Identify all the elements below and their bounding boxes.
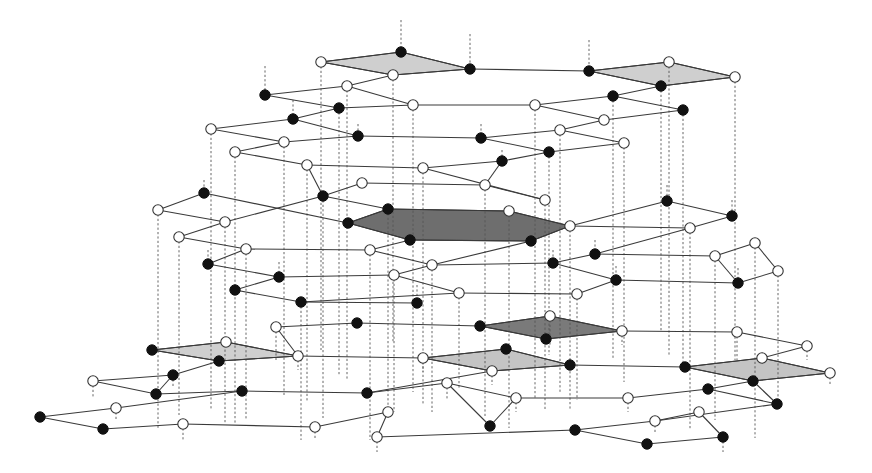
white-atom-icon <box>357 178 367 188</box>
white-atom-icon <box>383 407 393 417</box>
bond <box>293 119 358 136</box>
bond <box>560 130 624 143</box>
white-atom-icon <box>178 419 188 429</box>
bond <box>613 86 661 96</box>
black-atom-icon <box>230 285 240 295</box>
black-atom-icon <box>703 384 713 394</box>
bond <box>347 75 393 86</box>
white-atom-icon <box>388 70 398 80</box>
bond <box>293 108 339 119</box>
bond <box>301 302 417 303</box>
lattice-canvas <box>0 0 872 473</box>
bond <box>377 430 575 437</box>
bond <box>307 165 423 168</box>
bond <box>690 216 732 228</box>
white-atom-icon <box>730 72 740 82</box>
black-atom-icon <box>497 156 507 166</box>
white-atom-icon <box>342 81 352 91</box>
bond <box>276 323 357 327</box>
bond <box>323 196 388 209</box>
bond <box>459 293 577 294</box>
bond <box>235 142 284 152</box>
white-atom-icon <box>418 353 428 363</box>
bond <box>358 136 481 138</box>
bond <box>183 424 315 427</box>
black-atom-icon <box>203 259 213 269</box>
bond <box>357 323 480 326</box>
bond <box>560 120 604 130</box>
white-atom-icon <box>88 376 98 386</box>
white-atom-icon <box>504 206 514 216</box>
bond <box>242 391 367 393</box>
bond <box>667 201 732 216</box>
white-atom-icon <box>619 138 629 148</box>
crystal-lattice-diagram <box>0 0 872 473</box>
white-atom-icon <box>221 337 231 347</box>
black-atom-icon <box>680 362 690 372</box>
bond <box>211 119 293 129</box>
bond <box>616 280 738 283</box>
bond <box>570 226 690 228</box>
white-atom-icon <box>599 115 609 125</box>
white-atom-icon <box>442 378 452 388</box>
bond <box>235 277 279 290</box>
white-atom-icon <box>487 366 497 376</box>
white-atom-icon <box>271 322 281 332</box>
black-atom-icon <box>544 147 554 157</box>
black-atom-icon <box>214 356 224 366</box>
black-atom-icon <box>98 424 108 434</box>
bond <box>103 424 183 429</box>
bond <box>265 95 339 108</box>
bond <box>738 271 778 283</box>
black-atom-icon <box>501 344 511 354</box>
white-atom-icon <box>316 57 326 67</box>
bond <box>423 161 502 168</box>
black-atom-icon <box>608 91 618 101</box>
black-atom-icon <box>642 439 652 449</box>
bond <box>315 412 388 427</box>
bond <box>93 375 173 381</box>
black-atom-icon <box>147 345 157 355</box>
white-atom-icon <box>153 205 163 215</box>
black-atom-icon <box>237 386 247 396</box>
white-atom-icon <box>418 163 428 173</box>
white-atom-icon <box>617 326 627 336</box>
black-atom-icon <box>353 131 363 141</box>
bond <box>339 105 413 108</box>
bond <box>394 275 459 293</box>
white-atom-icon <box>241 244 251 254</box>
bond <box>481 130 560 138</box>
black-atom-icon <box>412 298 422 308</box>
black-atom-icon <box>274 272 284 282</box>
bond <box>604 110 683 120</box>
bond <box>647 437 723 444</box>
white-atom-icon <box>650 416 660 426</box>
bond <box>535 105 604 120</box>
bond <box>367 371 492 393</box>
black-atom-icon <box>662 196 672 206</box>
white-atom-icon <box>540 195 550 205</box>
black-atom-icon <box>611 275 621 285</box>
bond <box>577 280 616 294</box>
white-atom-icon <box>206 124 216 134</box>
black-atom-icon <box>352 318 362 328</box>
black-atom-icon <box>718 432 728 442</box>
white-atom-icon <box>111 403 121 413</box>
white-atom-icon <box>279 137 289 147</box>
black-atom-icon <box>383 204 393 214</box>
black-atom-icon <box>35 412 45 422</box>
black-atom-icon <box>318 191 328 201</box>
black-atom-icon <box>396 47 406 57</box>
bond <box>737 332 807 346</box>
white-atom-icon <box>572 289 582 299</box>
bond <box>323 183 362 196</box>
white-atom-icon <box>365 245 375 255</box>
white-atom-icon <box>230 147 240 157</box>
bond <box>502 152 549 161</box>
white-atom-icon <box>694 407 704 417</box>
white-atom-icon <box>408 100 418 110</box>
white-atom-icon <box>685 223 695 233</box>
black-atom-icon <box>151 389 161 399</box>
white-atom-icon <box>220 217 230 227</box>
bond <box>370 240 410 250</box>
